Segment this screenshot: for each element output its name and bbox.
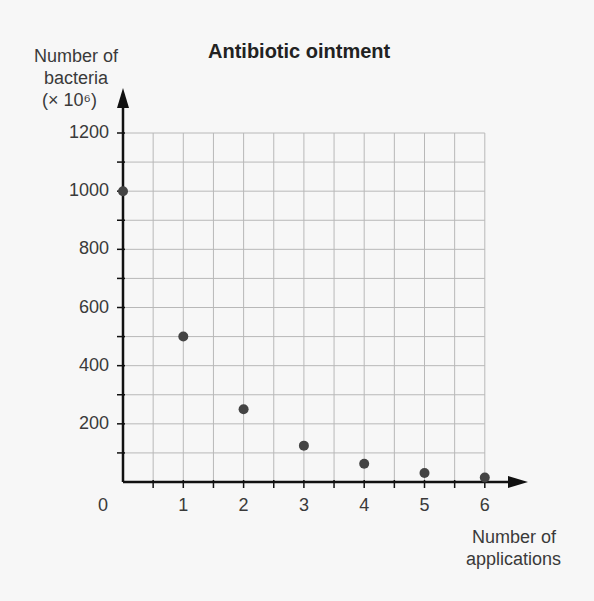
data-point: [480, 472, 490, 482]
x-tick-label: 3: [299, 495, 309, 516]
y-tick-label: 1000: [69, 180, 109, 201]
y-axis-arrow-icon: [117, 88, 129, 108]
x-tick-label: 4: [359, 495, 369, 516]
data-point: [239, 404, 249, 414]
x-tick-label: 0: [98, 495, 108, 516]
x-tick-label: 6: [480, 495, 490, 516]
data-point: [299, 441, 309, 451]
y-tick-label: 1200: [69, 122, 109, 143]
x-axis-arrow-icon: [508, 476, 528, 488]
x-tick-label: 2: [239, 495, 249, 516]
x-tick-label: 5: [420, 495, 430, 516]
y-tick-label: 600: [79, 297, 109, 318]
data-point: [178, 332, 188, 342]
y-tick-label: 400: [79, 355, 109, 376]
y-tick-label: 800: [79, 238, 109, 259]
data-point: [420, 468, 430, 478]
x-tick-label: 1: [178, 495, 188, 516]
data-point: [118, 186, 128, 196]
y-tick-label: 200: [79, 413, 109, 434]
data-point: [359, 459, 369, 469]
